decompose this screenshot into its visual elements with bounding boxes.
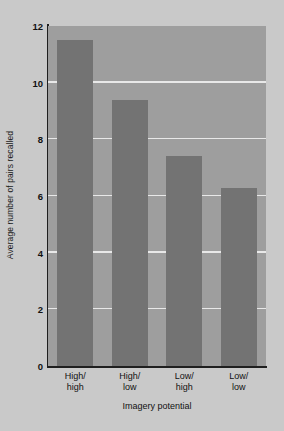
x-tick-label-line: High/ [65, 371, 86, 382]
y-tick-label: 8 [38, 134, 43, 145]
x-axis-tick-labels: High/highHigh/lowLow/highLow/low [48, 371, 266, 399]
x-tick-label: Low/high [175, 371, 194, 393]
bar[interactable] [166, 156, 202, 366]
y-tick-label: 4 [38, 247, 43, 258]
y-tick-label: 6 [38, 191, 43, 202]
plot-area [48, 26, 266, 366]
x-tick-label-line: High/ [119, 371, 140, 382]
x-tick-label-line: Low/ [175, 371, 194, 382]
x-tick-label: Low/low [229, 371, 248, 393]
x-tick-label: High/high [65, 371, 86, 393]
y-axis-tick-labels: 024681012 [20, 0, 46, 431]
bar[interactable] [57, 40, 93, 366]
y-tick-label: 10 [32, 77, 43, 88]
y-tick-label: 2 [38, 304, 43, 315]
y-tick-label: 12 [32, 21, 43, 32]
y-axis-title-text: Average number of pairs recalled [5, 131, 15, 259]
bar[interactable] [112, 100, 148, 366]
x-tick-label: High/low [119, 371, 140, 393]
x-tick-label-line: Low/ [229, 371, 248, 382]
bar[interactable] [221, 188, 257, 367]
y-axis-title: Average number of pairs recalled [0, 0, 20, 390]
bar-chart-figure: Average number of pairs recalled 0246810… [0, 0, 284, 431]
x-tick-label-line: high [175, 382, 194, 393]
x-axis-line [47, 366, 267, 368]
x-axis-title: Imagery potential [48, 401, 266, 411]
x-tick-label-line: low [119, 382, 140, 393]
x-tick-label-line: high [65, 382, 86, 393]
y-tick-label: 0 [38, 361, 43, 372]
x-tick-label-line: low [229, 382, 248, 393]
